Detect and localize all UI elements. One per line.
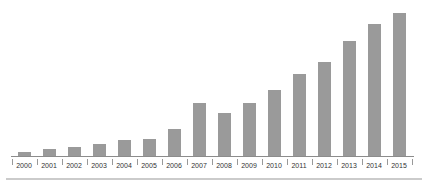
bar-2006 xyxy=(168,129,181,156)
x-axis-label: 2003 xyxy=(87,161,112,170)
x-axis-tick xyxy=(387,159,388,165)
x-axis-tick xyxy=(187,159,188,165)
x-axis-label: 2012 xyxy=(312,161,337,170)
x-axis-label: 2010 xyxy=(262,161,287,170)
plot-area: 2000200120022003200420052006200720082009… xyxy=(0,0,422,186)
bar-2012 xyxy=(318,62,331,156)
bar-2015 xyxy=(393,13,406,156)
x-axis-tick xyxy=(162,159,163,165)
bar-2008 xyxy=(218,113,231,156)
x-axis-tick xyxy=(87,159,88,165)
x-axis-tick xyxy=(237,159,238,165)
x-axis-label: 2000 xyxy=(12,161,37,170)
bar-2001 xyxy=(43,149,56,156)
bar-2004 xyxy=(118,140,131,156)
x-axis-tick xyxy=(337,159,338,165)
x-axis-tick xyxy=(312,159,313,165)
x-axis-label: 2008 xyxy=(212,161,237,170)
bar-2011 xyxy=(293,74,306,156)
bar-chart: 2000200120022003200420052006200720082009… xyxy=(0,0,422,186)
bar-2010 xyxy=(268,90,281,156)
x-axis-label: 2015 xyxy=(387,161,412,170)
x-axis-tick xyxy=(12,159,13,165)
x-axis-label: 2011 xyxy=(287,161,312,170)
bar-2009 xyxy=(243,103,256,156)
bar-2007 xyxy=(193,103,206,156)
x-axis-label: 2004 xyxy=(112,161,137,170)
x-axis-tick xyxy=(37,159,38,165)
x-axis-tick xyxy=(212,159,213,165)
x-axis-tick xyxy=(62,159,63,165)
bar-2002 xyxy=(68,147,81,156)
x-axis-label: 2007 xyxy=(187,161,212,170)
x-axis-tick xyxy=(112,159,113,165)
x-axis-tick xyxy=(287,159,288,165)
x-axis-tick xyxy=(137,159,138,165)
x-axis-line xyxy=(11,156,414,157)
bar-2014 xyxy=(368,24,381,156)
x-axis-label: 2002 xyxy=(62,161,87,170)
x-axis-label: 2009 xyxy=(237,161,262,170)
x-axis-label: 2014 xyxy=(362,161,387,170)
x-axis-label: 2001 xyxy=(37,161,62,170)
bar-2013 xyxy=(343,41,356,156)
x-axis-tick xyxy=(412,159,413,165)
x-axis-label: 2006 xyxy=(162,161,187,170)
bottom-separator-line xyxy=(6,178,422,180)
bar-2003 xyxy=(93,144,106,156)
bar-2005 xyxy=(143,139,156,156)
x-axis-tick xyxy=(262,159,263,165)
x-axis-tick xyxy=(362,159,363,165)
bar-2000 xyxy=(18,152,31,156)
x-axis-label: 2013 xyxy=(337,161,362,170)
x-axis-label: 2005 xyxy=(137,161,162,170)
